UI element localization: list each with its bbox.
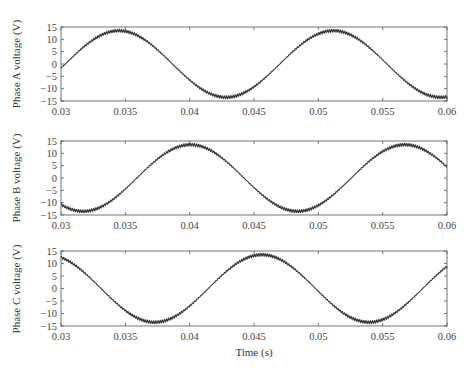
x-tick-labels: 0.030.0350.040.0450.050.0550.06 — [52, 106, 456, 117]
x-tick-label: 0.035 — [114, 220, 138, 231]
x-tick-labels: 0.030.0350.040.0450.050.0550.06 — [52, 220, 456, 231]
y-tick-label: −15 — [41, 96, 57, 107]
panel-phase-a: 151050−5−10−15 0.030.0350.040.0450.050.0… — [10, 20, 456, 117]
axis-ticks — [61, 251, 447, 326]
plot-frame — [61, 27, 447, 101]
x-tick-label: 0.045 — [242, 220, 266, 231]
y-tick-labels: 151050−5−10−15 — [41, 22, 57, 107]
x-tick-label: 0.04 — [180, 220, 199, 231]
y-tick-label: −5 — [46, 185, 57, 196]
y-tick-label: −5 — [46, 296, 57, 307]
y-tick-label: 5 — [52, 271, 57, 282]
x-tick-label: 0.03 — [52, 331, 70, 342]
x-tick-label: 0.035 — [114, 106, 138, 117]
y-tick-label: −15 — [41, 210, 57, 221]
phase-c-waveform — [61, 253, 447, 323]
y-tick-label: 10 — [47, 34, 58, 45]
figure: 151050−5−10−15 0.030.0350.040.0450.050.0… — [0, 0, 476, 379]
y-tick-label: 15 — [47, 136, 58, 147]
x-tick-label: 0.055 — [371, 220, 395, 231]
x-tick-label: 0.05 — [309, 220, 327, 231]
y-tick-labels: 151050−5−10−15 — [41, 246, 57, 332]
x-tick-label: 0.06 — [438, 106, 456, 117]
x-tick-label: 0.035 — [114, 331, 138, 342]
panel-phase-c: 151050−5−10−15 0.030.0350.040.0450.050.0… — [10, 244, 456, 342]
y-tick-label: 5 — [52, 46, 57, 57]
y-tick-label: −15 — [41, 321, 57, 332]
x-tick-label: 0.05 — [309, 331, 327, 342]
y-tick-label: −5 — [46, 71, 57, 82]
y-tick-label: 10 — [47, 148, 58, 159]
y-tick-label: 0 — [52, 59, 57, 70]
y-tick-label: −10 — [41, 308, 57, 319]
y-tick-label: 0 — [52, 173, 57, 184]
y-tick-labels: 151050−5−10−15 — [41, 136, 57, 221]
y-tick-label: 15 — [47, 246, 58, 257]
x-tick-label: 0.03 — [52, 106, 70, 117]
x-tick-label: 0.055 — [371, 331, 395, 342]
x-tick-label: 0.05 — [309, 106, 327, 117]
y-tick-label: −10 — [41, 83, 57, 94]
x-tick-label: 0.04 — [180, 331, 199, 342]
y-tick-label: 0 — [52, 283, 57, 294]
x-tick-label: 0.06 — [438, 220, 456, 231]
x-tick-label: 0.045 — [242, 331, 266, 342]
x-tick-label: 0.055 — [371, 106, 395, 117]
phase-a-waveform — [61, 29, 447, 98]
phase-b-waveform — [61, 143, 447, 212]
plot-frame — [61, 251, 447, 326]
y-tick-label: 10 — [47, 258, 58, 269]
plot-frame — [61, 141, 447, 215]
x-tick-label: 0.045 — [242, 106, 266, 117]
y-axis-label: Phase B voltage (V) — [10, 133, 23, 222]
y-tick-label: −10 — [41, 197, 57, 208]
x-tick-label: 0.04 — [180, 106, 199, 117]
x-axis-label: Time (s) — [235, 346, 273, 359]
x-tick-labels: 0.030.0350.040.0450.050.0550.06 — [52, 331, 456, 342]
axis-ticks — [61, 27, 447, 101]
x-tick-label: 0.03 — [52, 220, 70, 231]
x-tick-label: 0.06 — [438, 331, 456, 342]
y-axis-label: Phase A voltage (V) — [10, 20, 23, 109]
panel-phase-b: 151050−5−10−15 0.030.0350.040.0450.050.0… — [10, 133, 456, 231]
axis-ticks — [61, 141, 447, 215]
y-tick-label: 5 — [52, 160, 57, 171]
y-tick-label: 15 — [47, 22, 58, 33]
y-axis-label: Phase C voltage (V) — [10, 244, 23, 333]
